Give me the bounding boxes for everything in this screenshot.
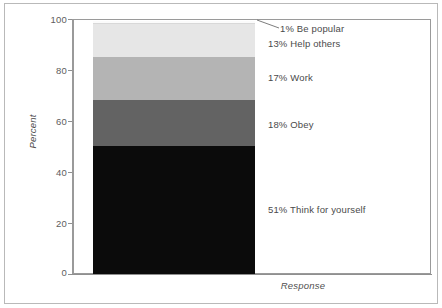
annotation-be-popular: 1% Be popular	[280, 23, 344, 34]
bar-segment-work[interactable]	[93, 57, 255, 100]
x-axis-title: Response	[248, 280, 358, 291]
annotation-help-others: 13% Help others	[268, 38, 340, 49]
bar-segment-help-others[interactable]	[93, 24, 255, 57]
stacked-bar[interactable]	[93, 21, 255, 274]
annotation-think-for-yourself: 51% Think for yourself	[268, 204, 366, 215]
leader-line-be-popular	[257, 20, 279, 29]
y-tick-label-100: 100	[51, 15, 67, 25]
bar-segment-think-for-yourself[interactable]	[93, 146, 255, 274]
y-tick-label-40: 40	[56, 168, 67, 178]
x-axis-spine	[72, 274, 432, 275]
y-tick-label-20: 20	[56, 219, 67, 229]
y-axis-title: Percent	[27, 102, 38, 162]
y-tick-label-60: 60	[56, 117, 67, 127]
bar-segment-obey[interactable]	[93, 100, 255, 146]
annotation-obey: 18% Obey	[268, 119, 314, 130]
y-tick-label-80: 80	[56, 66, 67, 76]
chart-screenshot: 100 80 60 40 20 0	[0, 0, 442, 308]
figure-frame: 100 80 60 40 20 0	[4, 3, 438, 304]
annotation-work: 17% Work	[268, 72, 313, 83]
y-tick-label-0: 0	[62, 268, 67, 278]
